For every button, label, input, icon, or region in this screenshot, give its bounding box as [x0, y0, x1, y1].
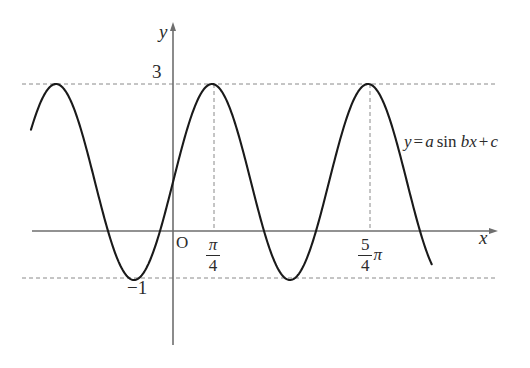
fraction-numerator: 5 — [358, 236, 373, 254]
equation-lhs: y — [404, 132, 412, 151]
x-tick-label-5pi-over-4: 5 4 π — [348, 236, 392, 275]
fraction-trailing-pi: π — [372, 245, 382, 265]
equation-plus: + — [477, 132, 491, 151]
equation-coefficient-a: a — [425, 132, 434, 151]
origin-label: O — [176, 234, 188, 251]
fraction-numerator: π — [206, 236, 221, 254]
y-tick-label-minus-1: −1 — [127, 278, 147, 297]
y-tick-label-3: 3 — [152, 62, 162, 81]
y-axis-label: y — [159, 22, 167, 41]
sine-curve-layer — [0, 0, 530, 368]
x-tick-label-pi-over-4: π 4 — [196, 236, 230, 275]
equation-equals: = — [412, 132, 426, 151]
equation-annotation: y=asin bx+c — [404, 133, 498, 150]
fraction-denominator: 4 — [206, 257, 221, 275]
fraction-denominator: 4 — [358, 257, 373, 275]
equation-coefficient-b: b — [461, 132, 470, 151]
fraction-5-over-4: 5 4 — [358, 236, 373, 275]
equation-variable-x: x — [469, 132, 477, 151]
equation-sin-function: sin — [434, 132, 457, 151]
x-axis-label: x — [479, 228, 487, 247]
equation-constant-c: c — [490, 132, 498, 151]
fraction-pi-over-4: π 4 — [206, 236, 221, 275]
